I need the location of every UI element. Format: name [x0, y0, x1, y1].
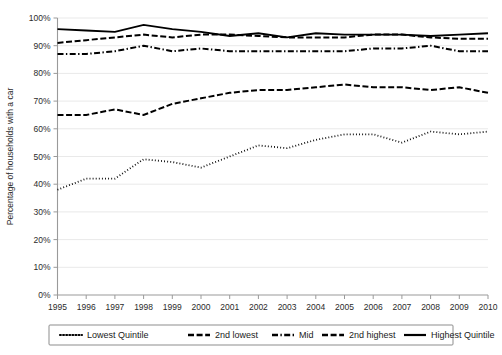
y-axis-tick-label: 10% [33, 262, 50, 272]
x-axis-tick-label: 2002 [249, 302, 268, 312]
y-axis-tick-label: 30% [33, 207, 50, 217]
y-axis-tick-label: 100% [29, 13, 51, 23]
y-axis-tick-label: 20% [33, 235, 50, 245]
x-axis-tick-label: 2007 [392, 302, 411, 312]
legend-label-mid[interactable]: Mid [299, 330, 314, 340]
y-axis-title-group: Percentage of households with a car [5, 88, 15, 226]
x-axis-tick-label: 2005 [335, 302, 354, 312]
series-line-2nd-lowest [58, 84, 489, 114]
gridlines-group [58, 18, 489, 267]
legend-group: Lowest Quintile2nd lowestMid2nd highestH… [49, 325, 495, 345]
x-axis-tick-label: 2000 [192, 302, 211, 312]
legend-label-lowest-quintile[interactable]: Lowest Quintile [87, 330, 149, 340]
series-line-highest-quintile [58, 25, 489, 37]
y-axis-title: Percentage of households with a car [5, 88, 15, 226]
series-line-mid [58, 46, 489, 54]
y-axis-ticks: 0%10%20%30%40%50%60%70%80%90%100% [29, 13, 58, 300]
legend-label-highest-quintile[interactable]: Highest Quintile [431, 330, 495, 340]
y-axis-tick-label: 50% [33, 152, 50, 162]
x-axis-tick-label: 2010 [479, 302, 498, 312]
y-axis-tick-label: 60% [33, 124, 50, 134]
line-chart: 0%10%20%30%40%50%60%70%80%90%100% 199519… [0, 0, 502, 355]
chart-container: 0%10%20%30%40%50%60%70%80%90%100% 199519… [0, 0, 502, 355]
y-axis-tick-label: 0% [38, 290, 51, 300]
x-axis-tick-label: 2001 [220, 302, 239, 312]
x-axis-tick-label: 2008 [421, 302, 440, 312]
x-axis-ticks: 1995199619971998199920002001200220032004… [48, 295, 498, 312]
x-axis-tick-label: 2009 [450, 302, 469, 312]
x-axis-tick-label: 1998 [134, 302, 153, 312]
x-axis-tick-label: 1999 [163, 302, 182, 312]
x-axis-tick-label: 1997 [105, 302, 124, 312]
x-axis-tick-label: 2003 [278, 302, 297, 312]
y-axis-tick-label: 40% [33, 179, 50, 189]
x-axis-tick-label: 2004 [306, 302, 325, 312]
legend-label-2nd-highest[interactable]: 2nd highest [349, 330, 396, 340]
y-axis-tick-label: 90% [33, 41, 50, 51]
data-series-group [58, 25, 489, 190]
legend-label-2nd-lowest[interactable]: 2nd lowest [215, 330, 259, 340]
series-line-lowest-quintile [58, 132, 489, 190]
x-axis-tick-label: 1996 [77, 302, 96, 312]
x-axis-tick-label: 1995 [48, 302, 67, 312]
y-axis-tick-label: 70% [33, 96, 50, 106]
y-axis-tick-label: 80% [33, 68, 50, 78]
x-axis-tick-label: 2006 [364, 302, 383, 312]
